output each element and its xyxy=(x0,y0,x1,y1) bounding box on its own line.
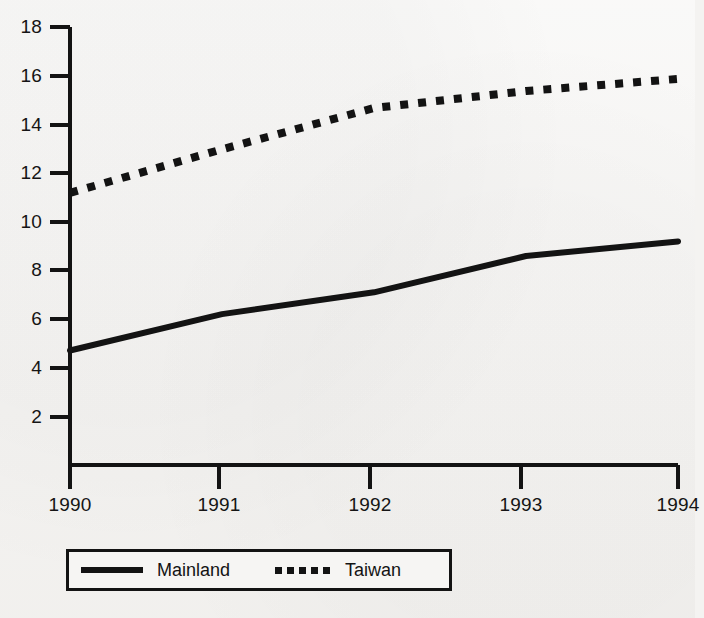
x-axis-label-1993: 1993 xyxy=(486,494,556,516)
y-axis-label-12: 12 xyxy=(8,162,42,184)
series-line-mainland xyxy=(70,241,678,350)
solid-line-swatch-icon xyxy=(81,561,143,579)
dotted-line-swatch-icon xyxy=(269,561,331,579)
y-axis-label-10: 10 xyxy=(8,211,42,233)
legend-item-mainland: Mainland xyxy=(81,552,230,588)
y-axis-label-2: 2 xyxy=(8,406,42,428)
y-axis-label-4: 4 xyxy=(8,357,42,379)
legend-label-mainland: Mainland xyxy=(157,560,230,581)
legend-label-taiwan: Taiwan xyxy=(345,560,401,581)
x-axis-ticks xyxy=(70,465,678,489)
y-axis-label-14: 14 xyxy=(8,114,42,136)
x-axis-label-1992: 1992 xyxy=(335,494,405,516)
legend-item-taiwan: Taiwan xyxy=(269,552,401,588)
y-axis-label-18: 18 xyxy=(8,16,42,38)
chart-legend: Mainland Taiwan xyxy=(66,549,452,591)
x-axis-label-1991: 1991 xyxy=(184,494,254,516)
x-axis-label-1994: 1994 xyxy=(643,494,704,516)
y-axis-label-6: 6 xyxy=(8,308,42,330)
x-axis-label-1990: 1990 xyxy=(35,494,105,516)
series-line-taiwan xyxy=(70,79,678,193)
y-axis-label-16: 16 xyxy=(8,65,42,87)
y-axis-label-8: 8 xyxy=(8,259,42,281)
y-axis-ticks xyxy=(50,27,70,417)
